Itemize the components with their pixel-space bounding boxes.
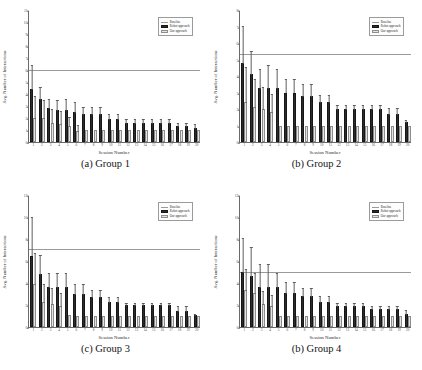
error-bar-cap [39, 87, 41, 88]
error-bar-cap [396, 306, 398, 307]
bar-group: 7 [81, 11, 90, 142]
x-axis-tick-label: 14 [354, 143, 357, 147]
bar-our-approach [296, 126, 299, 143]
legend-item: Our approach [372, 29, 400, 33]
x-axis-tick-label: 18 [178, 143, 181, 147]
error-bar [100, 290, 101, 299]
bar-group: 12 [124, 11, 133, 142]
error-bar [109, 297, 110, 303]
bar-group: 20 [192, 196, 201, 327]
error-bar-cap [370, 105, 372, 106]
x-axis-tick-label: 4 [58, 328, 60, 332]
bar-our-approach [244, 102, 247, 142]
x-axis-tick-label: 19 [397, 328, 400, 332]
x-axis-tick-label: 6 [286, 143, 288, 147]
y-axis-label: Avg. Number of Interactions [210, 11, 222, 143]
bar-group: 6 [72, 11, 81, 142]
error-bar [160, 119, 161, 124]
bar-our-approach [356, 316, 359, 327]
error-bar-cap [194, 124, 196, 125]
bar-our-approach [262, 304, 265, 327]
error-bar [311, 288, 312, 297]
legend-swatch [372, 20, 379, 23]
bar-group: 2 [249, 11, 258, 142]
x-axis-tick-label: 3 [50, 143, 52, 147]
x-axis-tick-label: 12 [337, 143, 340, 147]
bar-our-approach [197, 316, 200, 327]
legend-label: Baseline [170, 20, 181, 24]
bar-group: 14 [141, 11, 150, 142]
error-bar-cap [68, 117, 70, 118]
error-bar-cap [293, 79, 295, 80]
error-bar [371, 105, 372, 110]
x-axis-tick-label: 20 [406, 328, 409, 332]
bar-our-approach [180, 130, 183, 142]
x-axis-tick-label: 11 [118, 328, 121, 332]
error-bar [60, 111, 61, 125]
error-bar-cap [194, 314, 196, 315]
error-bar-cap [327, 296, 329, 297]
error-bar-cap [77, 125, 79, 126]
error-bar-cap [241, 238, 243, 239]
error-bar-cap [42, 284, 44, 285]
x-axis-tick-label: 19 [186, 143, 189, 147]
legend-item: Baseline [372, 20, 400, 24]
bar-our-approach [408, 126, 411, 143]
bar-group: 20 [192, 11, 201, 142]
bar-our-approach [287, 316, 290, 327]
bar-our-approach [119, 130, 122, 142]
x-axis-tick-label: 18 [178, 328, 181, 332]
legend-label: Baseline [381, 205, 392, 209]
legend-label: Our approach [170, 214, 187, 218]
x-axis-tick-label: 16 [161, 328, 164, 332]
bar-our-approach [76, 131, 79, 142]
x-axis-tick-label: 17 [169, 328, 172, 332]
error-bar [152, 119, 153, 124]
x-axis-tick-label: 14 [354, 328, 357, 332]
error-bar [380, 105, 381, 110]
bar-group: 2 [249, 196, 258, 327]
error-bar [260, 264, 261, 288]
bar-our-approach [408, 316, 411, 327]
error-bar-cap [388, 306, 390, 307]
bar-our-approach [356, 126, 359, 143]
error-bar [57, 100, 58, 111]
bar-our-approach [59, 306, 62, 327]
x-axis-tick-label: 1 [243, 143, 245, 147]
bar-our-approach [51, 123, 54, 142]
error-bar-cap [262, 291, 264, 292]
error-bar-cap [48, 99, 50, 100]
bar-group: 6 [283, 11, 292, 142]
y-axis-label: Avg. Number of Interactions [0, 11, 11, 143]
error-bar [303, 84, 304, 97]
bar-our-approach [154, 130, 157, 142]
error-bar [109, 114, 110, 120]
error-bar [397, 108, 398, 115]
bar-our-approach [365, 126, 368, 143]
bar-our-approach [128, 130, 131, 142]
error-bar [363, 105, 364, 110]
error-bar-cap [250, 51, 252, 52]
error-bar-cap [177, 123, 179, 124]
bar-group: 3 [46, 11, 55, 142]
bar-our-approach [330, 126, 333, 143]
bar-group: 9 [98, 196, 107, 327]
bar-our-approach [399, 316, 402, 327]
error-bar [328, 296, 329, 303]
error-bar-cap [302, 288, 304, 289]
panel-caption: (b) Group 2 [211, 158, 422, 169]
bar-group: 10 [106, 196, 115, 327]
legend-swatch [161, 215, 168, 218]
bar-group: 5 [63, 196, 72, 327]
bar-our-approach [171, 130, 174, 142]
error-bar [60, 293, 61, 307]
panel-caption: (a) Group 1 [0, 158, 211, 169]
bar-group: 3 [257, 196, 266, 327]
x-axis-tick-label: 13 [346, 328, 349, 332]
error-bar-cap [310, 288, 312, 289]
error-bar-cap [51, 109, 53, 110]
bar-our-approach [154, 316, 157, 327]
error-bar-cap [60, 111, 62, 112]
bar-group: 13 [343, 196, 352, 327]
x-axis-tick-label: 7 [84, 328, 86, 332]
